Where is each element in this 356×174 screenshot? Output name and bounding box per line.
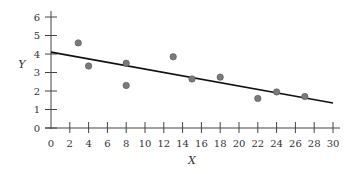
- data-point: [75, 40, 81, 46]
- y-tick-label: 6: [34, 12, 40, 23]
- x-tick-label: 4: [85, 138, 91, 149]
- x-axis-label: X: [187, 154, 197, 167]
- y-tick-label: 4: [34, 49, 40, 60]
- y-tick-label: 0: [34, 123, 40, 134]
- x-tick-label: 0: [48, 138, 54, 149]
- data-point: [255, 95, 261, 101]
- scatter-chart: 0246810121416182022242628300123456 X Y: [0, 0, 356, 174]
- data-point: [189, 76, 195, 82]
- y-axis-label: Y: [18, 58, 27, 71]
- x-tick-label: 2: [67, 138, 73, 149]
- x-tick-label: 6: [104, 138, 110, 149]
- data-point: [85, 63, 91, 69]
- x-tick-label: 22: [251, 138, 264, 149]
- x-tick-label: 30: [327, 138, 340, 149]
- y-tick-label: 3: [34, 67, 40, 78]
- data-point: [302, 93, 308, 99]
- data-point: [273, 89, 279, 95]
- data-point: [217, 74, 223, 80]
- axes: 0246810121416182022242628300123456: [34, 11, 340, 149]
- data-point: [123, 82, 129, 88]
- x-tick-label: 12: [157, 138, 170, 149]
- data-point: [170, 54, 176, 60]
- x-tick-label: 24: [270, 138, 283, 149]
- x-tick-label: 10: [139, 138, 152, 149]
- x-tick-label: 8: [123, 138, 129, 149]
- data-point: [123, 60, 129, 66]
- x-tick-label: 14: [176, 138, 189, 149]
- x-tick-label: 20: [233, 138, 246, 149]
- y-tick-label: 1: [34, 104, 40, 115]
- y-tick-label: 5: [34, 30, 40, 41]
- y-tick-label: 2: [34, 86, 40, 97]
- x-tick-label: 18: [214, 138, 227, 149]
- x-tick-label: 16: [195, 138, 208, 149]
- x-tick-label: 28: [308, 138, 321, 149]
- x-tick-label: 26: [289, 138, 302, 149]
